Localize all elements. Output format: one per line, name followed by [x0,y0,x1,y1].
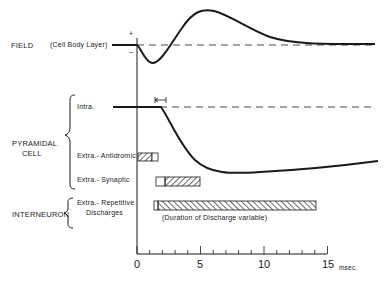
synaptic-bar-open [156,177,165,186]
antidromic-bar-open [152,153,158,161]
field-label: FIELD [11,41,33,50]
intra-label: Intra. [77,103,94,110]
repetitive-label-line1: Extra.- Repetitive [77,199,134,206]
interneuron-label: INTERNEURON [12,210,69,219]
interneuron-bar-open [154,201,158,210]
interneuron-bar-hatched [158,201,316,210]
duration-note: (Duration of Discharge variable) [162,214,267,221]
plus-sign: + [129,30,133,37]
antidromic-bar-hatched [138,153,152,161]
field-sublabel: (Cell Body Layer) [50,41,107,48]
extra-antidromic-label: Extra.- Antidromic [77,152,136,159]
time-axis-ticks [137,246,328,254]
pyramidal-brace [65,95,75,189]
axis-unit: msec. [339,264,357,271]
extra-synaptic-label: Extra.- Synaptic [77,176,130,183]
tick-10: 10 [258,258,270,270]
field-potential-trace [112,10,375,63]
tick-0: 0 [134,258,140,270]
pyramidal-label-line2: CELL [22,149,42,158]
minus-sign: – [129,48,133,55]
synaptic-bar-hatched [165,177,200,186]
pyramidal-label-line1: PYRAMIDAL [12,139,57,148]
tick-15: 15 [322,258,334,270]
tick-5: 5 [197,258,203,270]
intracellular-trace [113,107,378,173]
repetitive-label-line2: Discharges [86,209,123,216]
